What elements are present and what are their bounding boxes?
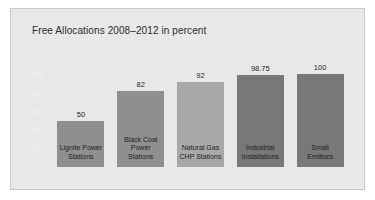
bar-value-label: 92	[177, 72, 224, 80]
chart-figure: Free Allocations 2008–2012 in percent 10…	[10, 8, 365, 190]
bar-rect[interactable]: Lignite PowerStations	[57, 121, 104, 167]
y-axis-tick-label: 20	[32, 145, 50, 152]
bar-category-label-line: Black Coal	[118, 136, 163, 145]
y-axis-tick-label: 40	[32, 126, 50, 133]
chart-title: Free Allocations 2008–2012 in percent	[32, 25, 206, 36]
bar-category-label: SmallEmittors	[297, 144, 344, 161]
bar-value-label: 50	[57, 111, 104, 119]
bar-rect[interactable]: Black CoalPower Stations	[117, 91, 164, 167]
bar-category-label-line: Lignite Power	[58, 144, 103, 153]
bar-category-label-line: Natural Gas	[178, 144, 223, 153]
bar-group: Lignite PowerStations50	[57, 65, 104, 173]
bar-category-label-line: Stations	[58, 153, 103, 162]
bar-series: Lignite PowerStations50Black CoalPower S…	[51, 65, 350, 173]
bar-column[interactable]: Natural GasCHP Stations92	[177, 82, 224, 167]
y-axis-tick-label: 60	[32, 108, 50, 115]
bar-group: Black CoalPower Stations82	[117, 65, 164, 173]
bar-category-label-line: CHP Stations	[178, 153, 223, 162]
y-axis: 100806040200	[32, 65, 52, 173]
bar-column[interactable]: IndustrialInstallations98.75	[237, 75, 284, 167]
bar-category-label: Natural GasCHP Stations	[177, 144, 224, 161]
bar-category-label: Lignite PowerStations	[57, 144, 104, 161]
bar-category-label: Black CoalPower Stations	[117, 136, 164, 162]
bar-group: Natural GasCHP Stations92	[177, 65, 224, 173]
y-axis-tick-label: 80	[32, 89, 50, 96]
bar-category-label-line: Emittors	[298, 153, 343, 162]
bar-group: IndustrialInstallations98.75	[237, 65, 284, 173]
bar-value-label: 100	[297, 64, 344, 72]
bar-category-label-line: Industrial	[238, 144, 283, 153]
bar-rect[interactable]: IndustrialInstallations	[237, 75, 284, 167]
y-axis-tick-label: 0	[32, 164, 50, 171]
bar-rect[interactable]: SmallEmittors	[297, 74, 344, 167]
bar-category-label: IndustrialInstallations	[237, 144, 284, 161]
bar-column[interactable]: Black CoalPower Stations82	[117, 91, 164, 167]
bar-category-label-line: Installations	[238, 153, 283, 162]
bar-group: SmallEmittors100	[297, 65, 344, 173]
bar-column[interactable]: SmallEmittors100	[297, 74, 344, 167]
y-axis-tick-label: 100	[32, 71, 50, 78]
bar-column[interactable]: Lignite PowerStations50	[57, 121, 104, 167]
bar-category-label-line: Power Stations	[118, 144, 163, 161]
bar-value-label: 82	[117, 81, 164, 89]
plot-area: 100806040200 Lignite PowerStations50Blac…	[32, 65, 350, 173]
bar-category-label-line: Small	[298, 144, 343, 153]
bar-rect[interactable]: Natural GasCHP Stations	[177, 82, 224, 167]
bar-value-label: 98.75	[237, 65, 284, 73]
